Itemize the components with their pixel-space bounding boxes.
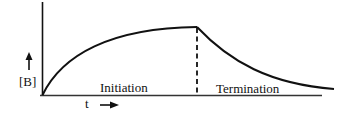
kinetics-diagram: [B] t Initiation Termination xyxy=(0,0,353,117)
termination-curve xyxy=(197,27,334,89)
x-axis-label: t xyxy=(85,96,89,111)
up-arrow-icon xyxy=(26,52,33,70)
region-label-termination: Termination xyxy=(216,81,280,96)
region-label-initiation: Initiation xyxy=(100,80,148,95)
y-axis-label: [B] xyxy=(19,74,36,89)
right-arrow-icon xyxy=(100,102,119,109)
